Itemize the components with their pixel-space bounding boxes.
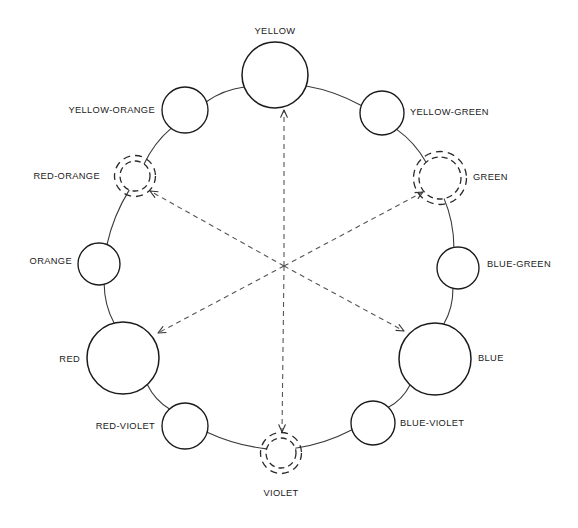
spoke-blue-to-blue-violet [388, 385, 410, 407]
color-node-orange[interactable] [78, 243, 120, 285]
color-label-yellow-orange: YELLOW-ORANGE [68, 105, 155, 115]
color-node-yellow-orange[interactable] [162, 87, 208, 133]
spoke-yellow-green-to-green [397, 129, 426, 162]
color-label-violet: VIOLET [263, 488, 298, 498]
color-node-blue-circle [399, 323, 471, 395]
arrow-to-green [284, 192, 423, 266]
spoke-blue-violet-to-violet [295, 430, 352, 449]
arrow-to-blue [284, 266, 404, 331]
color-label-blue-violet: BLUE-VIOLET [400, 418, 464, 428]
color-node-blue-green-circle [437, 247, 479, 289]
spoke-layer [104, 86, 454, 449]
color-node-yellow-circle [242, 42, 308, 108]
spoke-red-orange-to-yellow-orange [144, 128, 171, 164]
spoke-yellow-to-yellow-green [306, 86, 361, 106]
color-node-orange-circle [78, 243, 120, 285]
color-label-red-orange: RED-ORANGE [33, 171, 100, 181]
color-node-blue-green[interactable] [437, 247, 479, 289]
color-node-red-circle [87, 322, 159, 394]
color-node-red-orange[interactable] [115, 156, 156, 197]
color-node-green[interactable] [414, 152, 467, 205]
color-wheel-diagram: YELLOWYELLOW-GREENGREENBLUE-GREENBLUEBLU… [0, 0, 578, 528]
color-node-green-inner-ring [419, 157, 461, 199]
arrow-to-red-orange-shaft [150, 191, 284, 266]
color-node-red-violet-circle [162, 403, 208, 449]
arrow-to-red [158, 266, 284, 333]
color-node-red[interactable] [87, 322, 159, 394]
color-node-green-outer-ring [414, 152, 467, 205]
color-label-red-violet: RED-VIOLET [96, 421, 155, 431]
spoke-blue-green-to-blue [444, 288, 453, 324]
color-wheel-canvas: YELLOWYELLOW-GREENGREENBLUE-GREENBLUEBLU… [0, 0, 578, 528]
spoke-green-to-blue-green [444, 199, 454, 248]
spoke-red-violet-to-red [147, 385, 169, 409]
color-node-violet-inner-ring [266, 438, 296, 468]
arrow-to-green-shaft [284, 192, 423, 266]
color-node-yellow[interactable] [242, 42, 308, 108]
color-label-yellow-green: YELLOW-GREEN [410, 107, 489, 117]
color-label-red: RED [59, 354, 80, 364]
color-label-blue: BLUE [478, 353, 504, 363]
arrow-to-red-orange [150, 191, 284, 266]
color-node-red-violet[interactable] [162, 403, 208, 449]
arrow-to-blue-shaft [284, 266, 404, 331]
spoke-orange-to-red-orange [107, 190, 129, 245]
color-label-yellow: YELLOW [255, 26, 296, 36]
dashed-arrow-layer [150, 110, 423, 432]
color-label-green: GREEN [473, 172, 508, 182]
color-node-blue-violet-circle [351, 401, 395, 445]
color-node-red-orange-inner-ring [120, 161, 150, 191]
spoke-red-to-orange [104, 284, 114, 323]
color-label-orange: ORANGE [30, 256, 72, 266]
color-node-yellow-green-circle [360, 91, 404, 135]
arrow-to-violet [279, 266, 286, 432]
color-node-violet[interactable] [261, 433, 302, 474]
color-node-yellow-green[interactable] [360, 91, 404, 135]
spoke-yellow-orange-to-yellow [206, 87, 244, 102]
arrow-to-yellow [281, 110, 288, 266]
color-label-blue-green: BLUE-GREEN [487, 259, 551, 269]
spoke-violet-to-red-violet [207, 432, 267, 449]
arrow-to-red-shaft [158, 266, 284, 333]
arrow-to-violet-shaft [282, 266, 284, 432]
color-node-yellow-orange-circle [162, 87, 208, 133]
arrow-to-yellow-head [281, 110, 288, 117]
color-node-blue[interactable] [399, 323, 471, 395]
color-node-blue-violet[interactable] [351, 401, 395, 445]
